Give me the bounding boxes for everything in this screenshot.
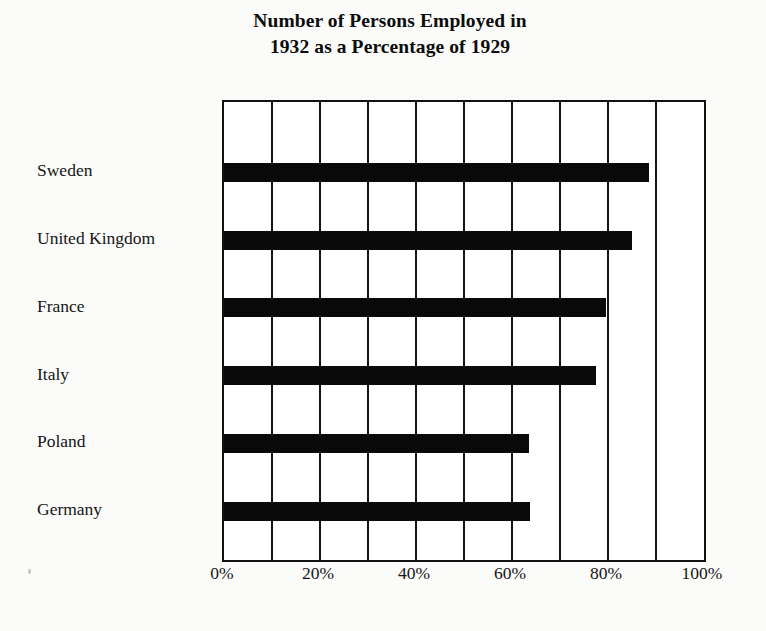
xtick-label-100pct: 100%	[662, 562, 742, 584]
category-label-sweden: Sweden	[37, 160, 217, 180]
xtick-label-80pct: 80%	[566, 562, 646, 584]
bar-sweden	[224, 163, 649, 182]
bar-row	[224, 138, 704, 206]
bar-united-kingdom	[224, 231, 632, 250]
bar-italy	[224, 366, 596, 385]
bar-row	[224, 477, 704, 545]
chart-title-line-2: 1932 as a Percentage of 1929	[160, 34, 620, 60]
bar-row	[224, 409, 704, 477]
chart-title: Number of Persons Employed in 1932 as a …	[160, 8, 620, 60]
category-label-poland: Poland	[37, 431, 217, 451]
bar-row	[224, 206, 704, 274]
plot-area	[222, 100, 706, 562]
bar-germany	[224, 502, 530, 521]
bar-poland	[224, 434, 529, 453]
xtick-label-0pct: 0%	[182, 562, 262, 584]
category-label-france: France	[37, 296, 217, 316]
xtick-label-60pct: 60%	[470, 562, 550, 584]
xtick-label-20pct: 20%	[278, 562, 358, 584]
chart-figure: Number of Persons Employed in 1932 as a …	[0, 0, 766, 631]
scan-artifact-speck	[28, 569, 31, 574]
category-label-italy: Italy	[37, 364, 217, 384]
bar-row	[224, 341, 704, 409]
bar-france	[224, 298, 606, 317]
chart-title-line-1: Number of Persons Employed in	[160, 8, 620, 34]
category-label-germany: Germany	[37, 499, 217, 519]
category-label-united-kingdom: United Kingdom	[37, 228, 217, 248]
bar-row	[224, 273, 704, 341]
xtick-label-40pct: 40%	[374, 562, 454, 584]
